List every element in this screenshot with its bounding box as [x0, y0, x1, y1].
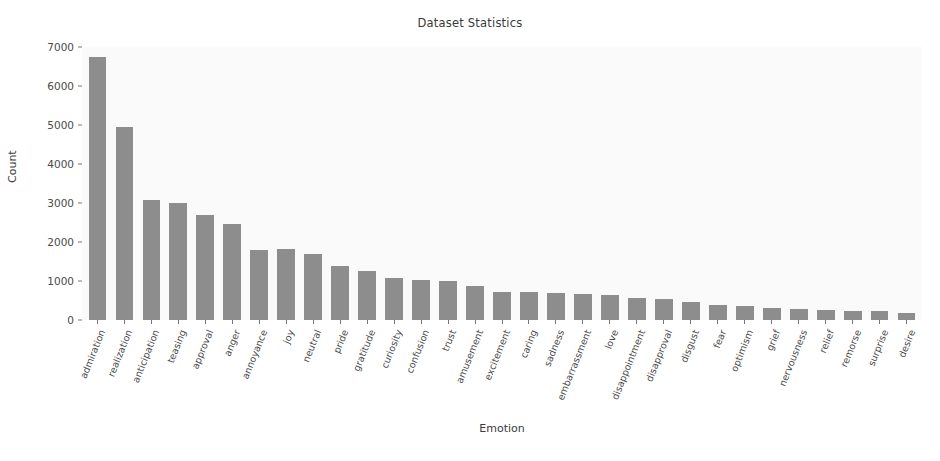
- bar-realization[interactable]: [116, 127, 134, 320]
- y-tick-label: 3000: [47, 197, 74, 209]
- x-label-slot: remorse: [839, 326, 866, 426]
- bar-approval[interactable]: [196, 215, 214, 320]
- bar-sadness[interactable]: [547, 293, 565, 320]
- bar-slot: [704, 47, 731, 320]
- bar-gratitude[interactable]: [358, 271, 376, 320]
- y-axis: Count 01000200030004000500060007000: [0, 0, 82, 461]
- bar-slot: [542, 47, 569, 320]
- bar-relief[interactable]: [817, 310, 835, 320]
- bar-neutral[interactable]: [304, 254, 322, 320]
- x-label-slot: caring: [516, 326, 543, 426]
- bar-disappointment[interactable]: [628, 298, 646, 320]
- x-tick-label-curiosity: curiosity: [379, 328, 404, 370]
- bar-slot: [111, 47, 138, 320]
- x-tick-label-realization: realization: [106, 328, 135, 378]
- x-label-slot: teasing: [165, 326, 192, 426]
- x-tick-label-caring: caring: [518, 328, 539, 360]
- x-label-slot: desire: [893, 326, 920, 426]
- y-tick-label: 6000: [47, 80, 74, 92]
- bar-anticipation[interactable]: [143, 200, 161, 320]
- x-tick-mark: [906, 320, 907, 324]
- bar-slot: [165, 47, 192, 320]
- bar-slot: [758, 47, 785, 320]
- x-label-slot: fear: [704, 326, 731, 426]
- bar-optimism[interactable]: [736, 306, 754, 320]
- x-tick-mark: [690, 320, 691, 324]
- x-tick-label-sadness: sadness: [542, 328, 567, 368]
- x-label-slot: embarrassment: [569, 326, 596, 426]
- x-label-slot: anticipation: [138, 326, 165, 426]
- bar-desire[interactable]: [898, 313, 916, 320]
- bar-trust[interactable]: [439, 281, 457, 320]
- x-tick-mark: [582, 320, 583, 324]
- x-tick-label-optimism: optimism: [728, 328, 755, 373]
- x-tick-mark: [124, 320, 125, 324]
- bar-anger[interactable]: [223, 224, 241, 320]
- bar-disgust[interactable]: [682, 302, 700, 320]
- x-tick-label-teasing: teasing: [165, 328, 188, 365]
- x-tick-mark: [394, 320, 395, 324]
- x-tick-label-pride: pride: [331, 328, 350, 355]
- bar-love[interactable]: [601, 295, 619, 320]
- x-label-slot: nervousness: [785, 326, 812, 426]
- bar-surprise[interactable]: [871, 311, 889, 320]
- bar-remorse[interactable]: [844, 311, 862, 320]
- x-tick-label-surprise: surprise: [865, 328, 890, 368]
- x-tick-mark: [421, 320, 422, 324]
- x-tick-mark: [771, 320, 772, 324]
- bars-container: [82, 47, 922, 320]
- bar-admiration[interactable]: [89, 57, 107, 320]
- bar-joy[interactable]: [277, 249, 295, 320]
- x-tick-mark: [636, 320, 637, 324]
- x-tick-mark: [151, 320, 152, 324]
- x-tick-mark: [609, 320, 610, 324]
- bar-caring[interactable]: [520, 292, 538, 320]
- bar-slot: [596, 47, 623, 320]
- bar-confusion[interactable]: [412, 280, 430, 320]
- bar-slot: [300, 47, 327, 320]
- bar-fear[interactable]: [709, 305, 727, 320]
- x-tick-mark: [475, 320, 476, 324]
- bar-disapproval[interactable]: [655, 299, 673, 320]
- bar-curiosity[interactable]: [385, 278, 403, 321]
- bar-amusement[interactable]: [466, 286, 484, 320]
- x-label-slot: confusion: [408, 326, 435, 426]
- bar-annoyance[interactable]: [250, 250, 268, 320]
- x-tick-label-love: love: [602, 328, 620, 351]
- bar-slot: [893, 47, 920, 320]
- x-tick-mark: [717, 320, 718, 324]
- x-tick-label-approval: approval: [190, 328, 216, 371]
- bar-slot: [192, 47, 219, 320]
- x-tick-mark: [340, 320, 341, 324]
- x-tick-mark: [367, 320, 368, 324]
- bar-slot: [138, 47, 165, 320]
- x-tick-mark: [528, 320, 529, 324]
- x-tick-mark: [259, 320, 260, 324]
- bar-slot: [408, 47, 435, 320]
- x-tick-label-desire: desire: [896, 328, 917, 359]
- bar-slot: [731, 47, 758, 320]
- x-tick-label-relief: relief: [817, 328, 836, 354]
- bar-nervousness[interactable]: [790, 309, 808, 320]
- x-tick-labels: admirationrealizationanticipationteasing…: [82, 326, 922, 426]
- x-tick-mark: [232, 320, 233, 324]
- x-tick-mark: [744, 320, 745, 324]
- bar-embarrassment[interactable]: [574, 294, 592, 320]
- x-tick-label-grief: grief: [764, 328, 782, 352]
- x-axis-label: Emotion: [82, 422, 922, 435]
- bar-slot: [866, 47, 893, 320]
- x-tick-label-trust: trust: [440, 328, 459, 353]
- y-axis-label: Count: [6, 150, 19, 183]
- bar-excitement[interactable]: [493, 292, 511, 320]
- bar-slot: [677, 47, 704, 320]
- bar-slot: [273, 47, 300, 320]
- x-tick-label-admiration: admiration: [78, 328, 108, 380]
- bar-grief[interactable]: [763, 308, 781, 320]
- y-tick-label: 0: [67, 314, 74, 326]
- x-tick-label-disgust: disgust: [678, 328, 701, 364]
- bar-pride[interactable]: [331, 266, 349, 320]
- bar-teasing[interactable]: [169, 203, 187, 320]
- x-label-slot: annoyance: [246, 326, 273, 426]
- y-tick-label: 4000: [47, 158, 74, 170]
- x-label-slot: neutral: [300, 326, 327, 426]
